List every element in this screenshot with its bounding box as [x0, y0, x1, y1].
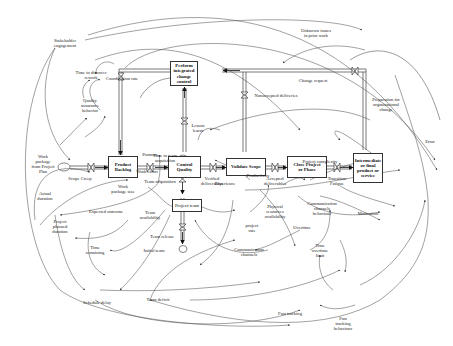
var-physical-resources: Physical resources availability [265, 204, 286, 219]
var-actual-duration: Actual duration [37, 191, 52, 201]
flow-accepted-deliverables: Accepted deliverables [264, 176, 286, 186]
var-communication-channels: Communication channels [234, 247, 264, 257]
var-prep-org-change: Preparation for organizational change [372, 97, 400, 112]
flow-nonaccepted-deliveries: Nonaccepted deliveries [255, 93, 298, 98]
flow-coordination-rate: Coordination rate [106, 76, 138, 81]
var-time-to-team-acquisition: Time to team acquisition [153, 153, 177, 163]
var-quality-assurance-behavior: Quality assurance behavior [81, 98, 99, 113]
stock-intermediate-product: Intermediate or final product or service [353, 153, 383, 183]
var-stakeholder-engagement: Stakeholder engagement [54, 38, 76, 48]
var-fatigue: Fatigue [330, 181, 344, 186]
var-error: Error [425, 139, 435, 144]
var-project-planned-duration: Project planned duration [52, 219, 67, 234]
stock-integrated-change-control: Perform integrated change control [170, 61, 198, 86]
var-initial-team: Initial team [143, 248, 164, 253]
var-overtime: Overtime [293, 225, 310, 230]
stock-project-team: Project team [172, 199, 202, 212]
var-time-remaining: Time remaining [86, 245, 105, 255]
var-project-rate: project rate [246, 223, 259, 233]
var-communication-channels-behaviour: Communication channels behaviour [307, 201, 337, 216]
var-work-package-plan: Work package from Project Plan [31, 154, 54, 174]
flow-team-release: Team release [150, 234, 174, 239]
flow-scope-creep: Scope Creep [68, 176, 91, 181]
var-project-complexity: Project complexity [303, 159, 338, 164]
var-motivation: Motivation [358, 211, 378, 216]
var-work-package-size: Work package size [111, 184, 134, 194]
stock-product-backlog: Product Backlog [108, 156, 138, 178]
var-experience: Experience [215, 181, 236, 186]
var-schedule-delay: Schedule delay [83, 300, 111, 305]
flow-change-request: Change request [299, 78, 327, 83]
var-time-to-discover-rework: Time to discover rework [76, 70, 107, 80]
var-fast-tracking: Fast tracking [278, 311, 302, 316]
flow-lesson-learnt: Lesson learnt [191, 123, 204, 133]
var-productivity: Productivity [247, 173, 270, 178]
var-expected-outcome: Expected outcome [89, 209, 123, 214]
var-team-availability: Team availability [140, 210, 161, 220]
var-work-effort: Work effort [136, 169, 157, 174]
var-unknown-issues: Unknown issues in prior work [301, 28, 331, 38]
var-team-deficit: Team deficit [146, 297, 169, 302]
flow-team-acquisition: Team acquisition [144, 179, 175, 184]
var-fast-tracking-behaviour: Fast tracking behaviour [334, 316, 352, 331]
var-time-overtime-limit: Time overtime limit [312, 243, 328, 258]
